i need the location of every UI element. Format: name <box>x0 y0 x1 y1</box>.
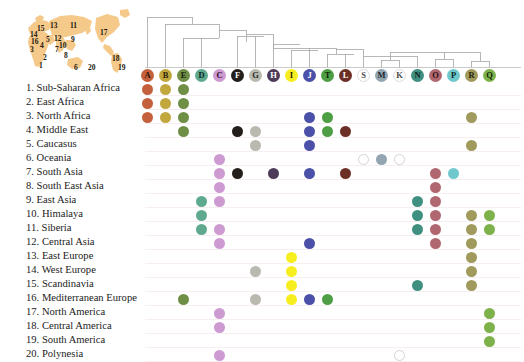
matrix-dot-C-r12[interactable] <box>214 238 225 249</box>
matrix-dot-C-r8[interactable] <box>214 182 225 193</box>
matrix-dot-L-r4[interactable] <box>340 126 351 137</box>
matrix-dot-Q-r19[interactable] <box>484 336 495 347</box>
matrix-dot-Q-r11[interactable] <box>484 224 495 235</box>
matrix-dot-E-r2[interactable] <box>178 98 189 109</box>
matrix-dot-O-r11[interactable] <box>430 224 441 235</box>
matrix-dot-I-r15[interactable] <box>286 280 297 291</box>
matrix-dot-F-r7[interactable] <box>232 168 243 179</box>
matrix-dot-O-r8[interactable] <box>430 182 441 193</box>
matrix-dot-J-r3[interactable] <box>304 112 315 123</box>
haplogroup-R[interactable]: R <box>465 69 478 82</box>
haplogroup-F[interactable]: F <box>231 69 244 82</box>
matrix-dot-R-r15[interactable] <box>466 280 477 291</box>
haplogroup-E[interactable]: E <box>177 69 190 82</box>
haplogroup-I[interactable]: I <box>285 69 298 82</box>
matrix-dot-O-r9[interactable] <box>430 196 441 207</box>
matrix-dot-R-r14[interactable] <box>466 266 477 277</box>
haplogroup-T[interactable]: T <box>321 69 334 82</box>
matrix-dot-G-r14[interactable] <box>250 266 261 277</box>
matrix-dot-D-r10[interactable] <box>196 210 207 221</box>
matrix-dot-G-r16[interactable] <box>250 294 261 305</box>
matrix-dot-J-r7[interactable] <box>304 168 315 179</box>
matrix-dot-Q-r17[interactable] <box>484 308 495 319</box>
matrix-dot-C-r6[interactable] <box>214 154 225 165</box>
haplogroup-N-label: N <box>414 71 420 80</box>
matrix-dot-A-r3[interactable] <box>142 112 153 123</box>
matrix-dot-R-r5[interactable] <box>466 140 477 151</box>
matrix-dot-N-r10[interactable] <box>412 210 423 221</box>
matrix-dot-M-r6[interactable] <box>376 154 387 165</box>
matrix-dot-T-r16[interactable] <box>322 294 333 305</box>
haplogroup-P[interactable]: P <box>447 69 460 82</box>
matrix-dot-L-r7[interactable] <box>340 168 351 179</box>
haplogroup-M[interactable]: M <box>375 69 388 82</box>
matrix-dot-R-r13[interactable] <box>466 252 477 263</box>
matrix-dot-R-r11[interactable] <box>466 224 477 235</box>
haplogroup-H[interactable]: H <box>267 69 280 82</box>
matrix-dot-J-r16[interactable] <box>304 294 315 305</box>
matrix-dot-J-r12[interactable] <box>304 238 315 249</box>
matrix-dot-R-r3[interactable] <box>466 112 477 123</box>
haplogroup-S[interactable]: S <box>357 69 370 82</box>
haplogroup-O[interactable]: O <box>429 69 442 82</box>
haplogroup-N[interactable]: N <box>411 69 424 82</box>
haplogroup-J[interactable]: J <box>303 69 316 82</box>
matrix-dot-H-r7[interactable] <box>268 168 279 179</box>
matrix-dot-E-r3[interactable] <box>178 112 189 123</box>
matrix-dot-B-r2[interactable] <box>160 98 171 109</box>
matrix-gridline <box>145 207 521 208</box>
haplogroup-A[interactable]: A <box>141 69 154 82</box>
matrix-dot-G-r5[interactable] <box>250 140 261 151</box>
matrix-dot-T-r3[interactable] <box>322 112 333 123</box>
haplogroup-D[interactable]: D <box>195 69 208 82</box>
haplogroup-Q[interactable]: Q <box>483 69 496 82</box>
matrix-dot-E-r4[interactable] <box>178 126 189 137</box>
matrix-dot-E-r1[interactable] <box>178 84 189 95</box>
matrix-dot-J-r5[interactable] <box>304 140 315 151</box>
matrix-dot-C-r11[interactable] <box>214 224 225 235</box>
matrix-dot-R-r12[interactable] <box>466 238 477 249</box>
matrix-dot-N-r9[interactable] <box>412 196 423 207</box>
matrix-gridline <box>145 109 521 110</box>
matrix-dot-A-r1[interactable] <box>142 84 153 95</box>
matrix-dot-A-r2[interactable] <box>142 98 153 109</box>
matrix-dot-O-r12[interactable] <box>430 238 441 249</box>
matrix-dot-D-r9[interactable] <box>196 196 207 207</box>
matrix-dot-I-r13[interactable] <box>286 252 297 263</box>
matrix-dot-Q-r10[interactable] <box>484 210 495 221</box>
matrix-dot-T-r4[interactable] <box>322 126 333 137</box>
matrix-dot-Q-r18[interactable] <box>484 322 495 333</box>
matrix-dot-F-r4[interactable] <box>232 126 243 137</box>
matrix-dot-C-r18[interactable] <box>214 322 225 333</box>
matrix-dot-O-r10[interactable] <box>430 210 441 221</box>
matrix-dot-J-r4[interactable] <box>304 126 315 137</box>
matrix-dot-C-r9[interactable] <box>214 196 225 207</box>
matrix-dot-O-r7[interactable] <box>430 168 441 179</box>
matrix-gridline <box>145 347 521 348</box>
region-label-3: 3. North Africa <box>26 111 90 122</box>
matrix-dot-S-r6[interactable] <box>358 154 369 165</box>
haplogroup-L[interactable]: L <box>339 69 352 82</box>
matrix-dot-C-r7[interactable] <box>214 168 225 179</box>
matrix-dot-B-r3[interactable] <box>160 112 171 123</box>
matrix-dot-I-r16[interactable] <box>286 294 297 305</box>
haplogroup-C[interactable]: C <box>213 69 226 82</box>
matrix-dot-B-r1[interactable] <box>160 84 171 95</box>
matrix-dot-K-r20[interactable] <box>394 350 405 361</box>
matrix-dot-C-r17[interactable] <box>214 308 225 319</box>
matrix-dot-C-r20[interactable] <box>214 350 225 361</box>
matrix-dot-K-r6[interactable] <box>394 154 405 165</box>
matrix-dot-G-r4[interactable] <box>250 126 261 137</box>
haplogroup-B[interactable]: B <box>159 69 172 82</box>
haplogroup-K[interactable]: K <box>393 69 406 82</box>
matrix-dot-D-r11[interactable] <box>196 224 207 235</box>
region-label-16: 16. Mediterranean Europe <box>26 293 137 304</box>
map-marker-20: 20 <box>88 64 96 72</box>
matrix-dot-I-r14[interactable] <box>286 266 297 277</box>
matrix-dot-P-r7[interactable] <box>448 168 459 179</box>
matrix-dot-N-r11[interactable] <box>412 224 423 235</box>
haplogroup-G[interactable]: G <box>249 69 262 82</box>
matrix-dot-N-r15[interactable] <box>412 280 423 291</box>
matrix-dot-E-r16[interactable] <box>178 294 189 305</box>
matrix-dot-R-r10[interactable] <box>466 210 477 221</box>
